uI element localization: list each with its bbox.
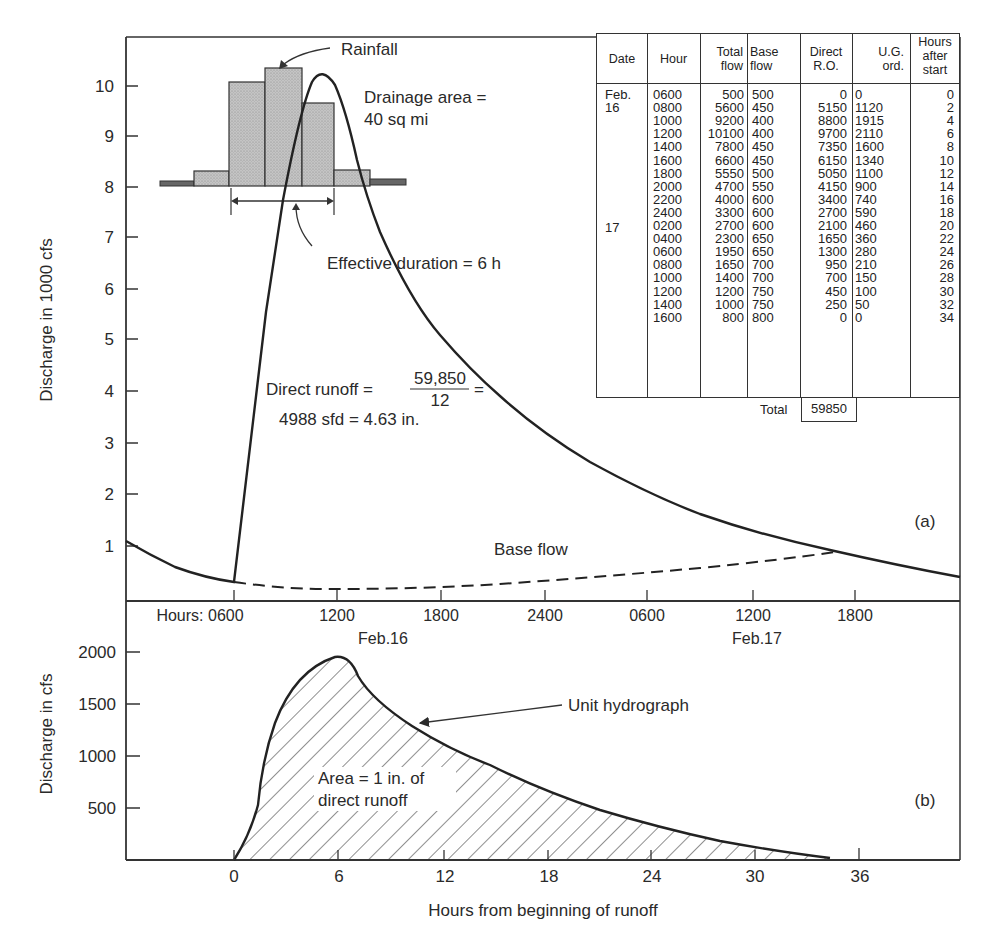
date-label-feb17: Feb.17 — [732, 630, 782, 647]
table-cell-total: 4700 — [700, 180, 744, 193]
y-ticks-bottom — [126, 652, 140, 808]
table-total-value: 59850 — [801, 398, 857, 422]
x-axis-label-bottom: Hours from beginning of runoff — [428, 901, 658, 920]
table-cell-total: 1200 — [700, 285, 744, 298]
table-cell-hours: 28 — [910, 271, 954, 284]
y-axis-label-top: Discharge in 1000 cfs — [37, 238, 56, 401]
direct-runoff-formula: Direct runoff = 59,850 12 = 4988 sfd = 4… — [266, 369, 484, 429]
xtick-label: 2400 — [527, 607, 563, 624]
ytick-label: 1 — [105, 537, 114, 556]
hours-prefix-label: Hours: 0600 — [156, 607, 243, 624]
effective-duration-label: Effective duration = 6 h — [327, 254, 501, 273]
ytick-label: 6 — [105, 280, 114, 299]
ytick-label: 4 — [105, 382, 114, 401]
panel-b: 2000 1500 1000 500 Discharge in cfs 0 6 … — [37, 601, 960, 920]
ytick-label: 500 — [88, 799, 116, 818]
xtick-label: 24 — [643, 867, 662, 886]
formula-equals: = — [474, 380, 484, 399]
table-col-divider — [647, 34, 648, 397]
table-cell-base: 450 — [752, 154, 796, 167]
xtick-label: 18 — [540, 867, 559, 886]
unit-hydrograph-area — [234, 657, 830, 860]
formula-numerator: 59,850 — [414, 369, 466, 388]
panel-label-a: (a) — [915, 512, 936, 531]
table-cell-base: 600 — [752, 193, 796, 206]
ytick-label: 8 — [105, 178, 114, 197]
table-cell-hours: 12 — [910, 167, 954, 180]
drainage-area-label-line2: 40 sq mi — [364, 110, 428, 129]
xtick-label: 1800 — [837, 607, 873, 624]
table-cell-direct: 3400 — [800, 193, 847, 206]
ytick-label: 5 — [105, 330, 114, 349]
base-flow-label: Base flow — [494, 540, 568, 559]
table-cell-hour: 1400 — [653, 140, 697, 153]
table-cell-hours: 30 — [910, 285, 954, 298]
table-cell-ug: 50 — [855, 298, 897, 311]
y-tick-labels-top: 10 9 8 7 6 5 4 3 2 1 — [95, 77, 114, 556]
direct-runoff-label: Direct runoff = — [266, 380, 373, 399]
direct-runoff-result: 4988 sfd = 4.63 in. — [279, 410, 419, 429]
xtick-label: 0 — [229, 867, 238, 886]
xtick-label: 1200 — [319, 607, 355, 624]
ytick-label: 7 — [105, 228, 114, 247]
table-total-label: Total — [760, 402, 787, 417]
table-cell-direct: 250 — [800, 298, 847, 311]
ytick-label: 10 — [95, 77, 114, 96]
table-cell-ug: 740 — [855, 193, 897, 206]
table-cell-ug: 900 — [855, 180, 897, 193]
table-header-ug-ord: U.G.ord. — [852, 45, 910, 73]
y-tick-labels-bottom: 2000 1500 1000 500 — [78, 643, 116, 818]
table-cell-direct: 5050 — [800, 167, 847, 180]
formula-denominator: 12 — [431, 391, 450, 410]
table-cell-hours: 8 — [910, 140, 954, 153]
table-cell-date: 16 — [605, 101, 645, 114]
table-cell-hours: 10 — [910, 154, 954, 167]
table-col-divider — [852, 34, 853, 397]
rainfall-hyetograph — [160, 48, 406, 246]
rainfall-label: Rainfall — [341, 40, 398, 59]
table-cell-direct: 4150 — [800, 180, 847, 193]
area-label-line1: Area = 1 in. of — [318, 769, 425, 788]
ytick-label: 1500 — [78, 695, 116, 714]
table-cell-total: 800 — [700, 311, 744, 324]
table-cell-hour: 1800 — [653, 167, 697, 180]
table-cell-hour: 1600 — [653, 154, 697, 167]
ytick-label: 9 — [105, 127, 114, 146]
table-cell-ug: 0 — [855, 311, 897, 324]
table-cell-base: 700 — [752, 271, 796, 284]
drainage-area-label-line1: Drainage area = — [364, 88, 486, 107]
table-cell-total: 1000 — [700, 298, 744, 311]
x-ticks-top — [234, 590, 855, 601]
table-cell-base: 500 — [752, 167, 796, 180]
table-cell-hours: 34 — [910, 311, 954, 324]
table-col-divider — [747, 34, 748, 397]
xtick-label: 6 — [334, 867, 343, 886]
table-cell-direct: 0 — [800, 311, 847, 324]
table-cell-direct: 450 — [800, 285, 847, 298]
table-cell-base: 800 — [752, 311, 796, 324]
table-cell-base: 750 — [752, 285, 796, 298]
y-axis-label-bottom: Discharge in cfs — [37, 674, 56, 795]
table-cell-total: 6600 — [700, 154, 744, 167]
table-cell-direct: 6150 — [800, 154, 847, 167]
table-cell-hour: 1200 — [653, 285, 697, 298]
xtick-label: 1200 — [735, 607, 771, 624]
date-label-feb16: Feb.16 — [358, 630, 408, 647]
table-cell-direct: 700 — [800, 271, 847, 284]
table-header-hour: Hour — [647, 52, 700, 66]
xtick-label: 36 — [851, 867, 870, 886]
table-cell-hour: 2000 — [653, 180, 697, 193]
xtick-label: 12 — [436, 867, 455, 886]
table-header-direct-ro: DirectR.O. — [800, 45, 852, 73]
table-cell-total: 5550 — [700, 167, 744, 180]
ytick-label: 1000 — [78, 747, 116, 766]
table-header-base-flow: Baseflow — [750, 45, 800, 73]
panel-label-b: (b) — [915, 791, 936, 810]
table-header-divider — [597, 83, 959, 84]
table-cell-ug: 150 — [855, 271, 897, 284]
table-cell-base: 750 — [752, 298, 796, 311]
table-cell-total: 4000 — [700, 193, 744, 206]
table-cell-direct: 7350 — [800, 140, 847, 153]
y-ticks-top — [126, 86, 138, 546]
table-cell-total: 1400 — [700, 271, 744, 284]
